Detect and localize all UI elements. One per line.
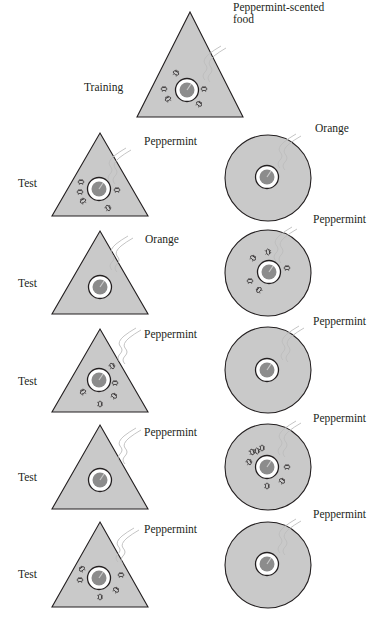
circle-scent-label-1: Orange xyxy=(315,122,349,134)
training-scent-line2: food xyxy=(233,13,324,25)
test-label-4: Test xyxy=(18,471,37,483)
test-label-1: Test xyxy=(18,177,37,189)
test-label-2: Test xyxy=(18,277,37,289)
test-label-3: Test xyxy=(18,375,37,387)
triangle-scent-label-3: Peppermint xyxy=(144,328,197,340)
triangle-scent-label-2: Orange xyxy=(145,233,179,245)
training-label: Training xyxy=(84,81,123,93)
circle-scent-label-5: Peppermint xyxy=(313,508,366,520)
circle-scent-label-2: Peppermint xyxy=(313,213,366,225)
training-scent-label: Peppermint-scented food xyxy=(233,1,324,25)
training-scent-line1: Peppermint-scented xyxy=(233,1,324,13)
test-label-5: Test xyxy=(18,568,37,580)
circle-scent-label-4: Peppermint xyxy=(313,412,366,424)
test-row-2 xyxy=(52,227,311,316)
triangle-scent-label-4: Peppermint xyxy=(144,426,197,438)
triangle-scent-label-5: Peppermint xyxy=(144,523,197,535)
circle-scent-label-3: Peppermint xyxy=(313,315,366,327)
training-triangle xyxy=(137,12,243,117)
triangle-scent-label-1: Peppermint xyxy=(144,135,197,147)
